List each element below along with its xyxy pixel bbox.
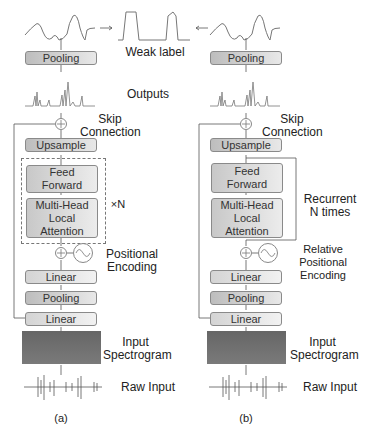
- caption-b: (b): [234, 412, 258, 425]
- outputs-spikes-b: [210, 80, 285, 110]
- pos-add-icon: [240, 247, 252, 259]
- linear-bottom-box: Linear: [210, 312, 282, 326]
- skip-add-icon: [240, 118, 252, 130]
- skip-connection-label: Skip Connection: [262, 113, 322, 139]
- relative-positional-encoding-label: Relative Positional Encoding: [293, 243, 353, 282]
- raw-waveform-b: [209, 372, 287, 402]
- sine-wave-icon: [258, 243, 278, 263]
- recurrent-label: Recurrent N times: [300, 193, 360, 219]
- pooling-top-box: Pooling: [210, 51, 282, 65]
- pooling-mid-box: Pooling: [210, 291, 282, 305]
- spectrogram-label: Input Spectrogram: [290, 336, 355, 362]
- raw-input-label: Raw Input: [300, 381, 360, 394]
- feed-forward-box: Feed Forward: [211, 163, 283, 193]
- attention-box: Multi-Head Local Attention: [211, 198, 283, 238]
- input-spectrogram-b: [207, 331, 286, 364]
- upsample-box: Upsample: [210, 138, 282, 152]
- linear-top-box: Linear: [210, 270, 282, 284]
